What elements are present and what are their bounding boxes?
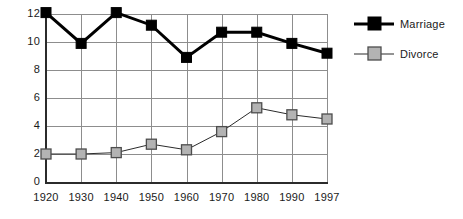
data-point-marker[interactable] bbox=[76, 149, 86, 159]
data-point-marker[interactable] bbox=[41, 8, 51, 18]
data-point-marker[interactable] bbox=[146, 139, 156, 149]
legend-marker-divorce bbox=[352, 42, 396, 66]
data-point-marker[interactable] bbox=[76, 38, 86, 48]
series-marriage bbox=[41, 8, 332, 63]
legend-item-divorce[interactable]: Divorce bbox=[352, 42, 463, 72]
data-point-marker[interactable] bbox=[41, 149, 51, 159]
legend-item-marriage[interactable]: Marriage bbox=[352, 12, 463, 42]
series-line bbox=[46, 13, 327, 58]
data-point-marker[interactable] bbox=[182, 52, 192, 62]
data-point-marker[interactable] bbox=[217, 27, 227, 37]
data-point-marker[interactable] bbox=[322, 48, 332, 58]
data-point-marker[interactable] bbox=[322, 114, 332, 124]
data-point-marker[interactable] bbox=[252, 27, 262, 37]
data-point-marker[interactable] bbox=[146, 20, 156, 30]
data-point-marker[interactable] bbox=[111, 8, 121, 18]
data-point-marker[interactable] bbox=[217, 127, 227, 137]
legend-label-divorce: Divorce bbox=[400, 48, 439, 60]
line-chart: 024681012 192019301940195019601970198019… bbox=[0, 0, 463, 219]
series-divorce bbox=[41, 103, 332, 159]
chart-legend: Marriage Divorce bbox=[352, 12, 463, 72]
data-point-marker[interactable] bbox=[252, 103, 262, 113]
legend-marker-marriage bbox=[352, 12, 396, 36]
data-point-marker[interactable] bbox=[111, 148, 121, 158]
legend-label-marriage: Marriage bbox=[400, 18, 445, 30]
data-point-marker[interactable] bbox=[287, 110, 297, 120]
data-point-marker[interactable] bbox=[182, 145, 192, 155]
data-point-marker[interactable] bbox=[287, 38, 297, 48]
